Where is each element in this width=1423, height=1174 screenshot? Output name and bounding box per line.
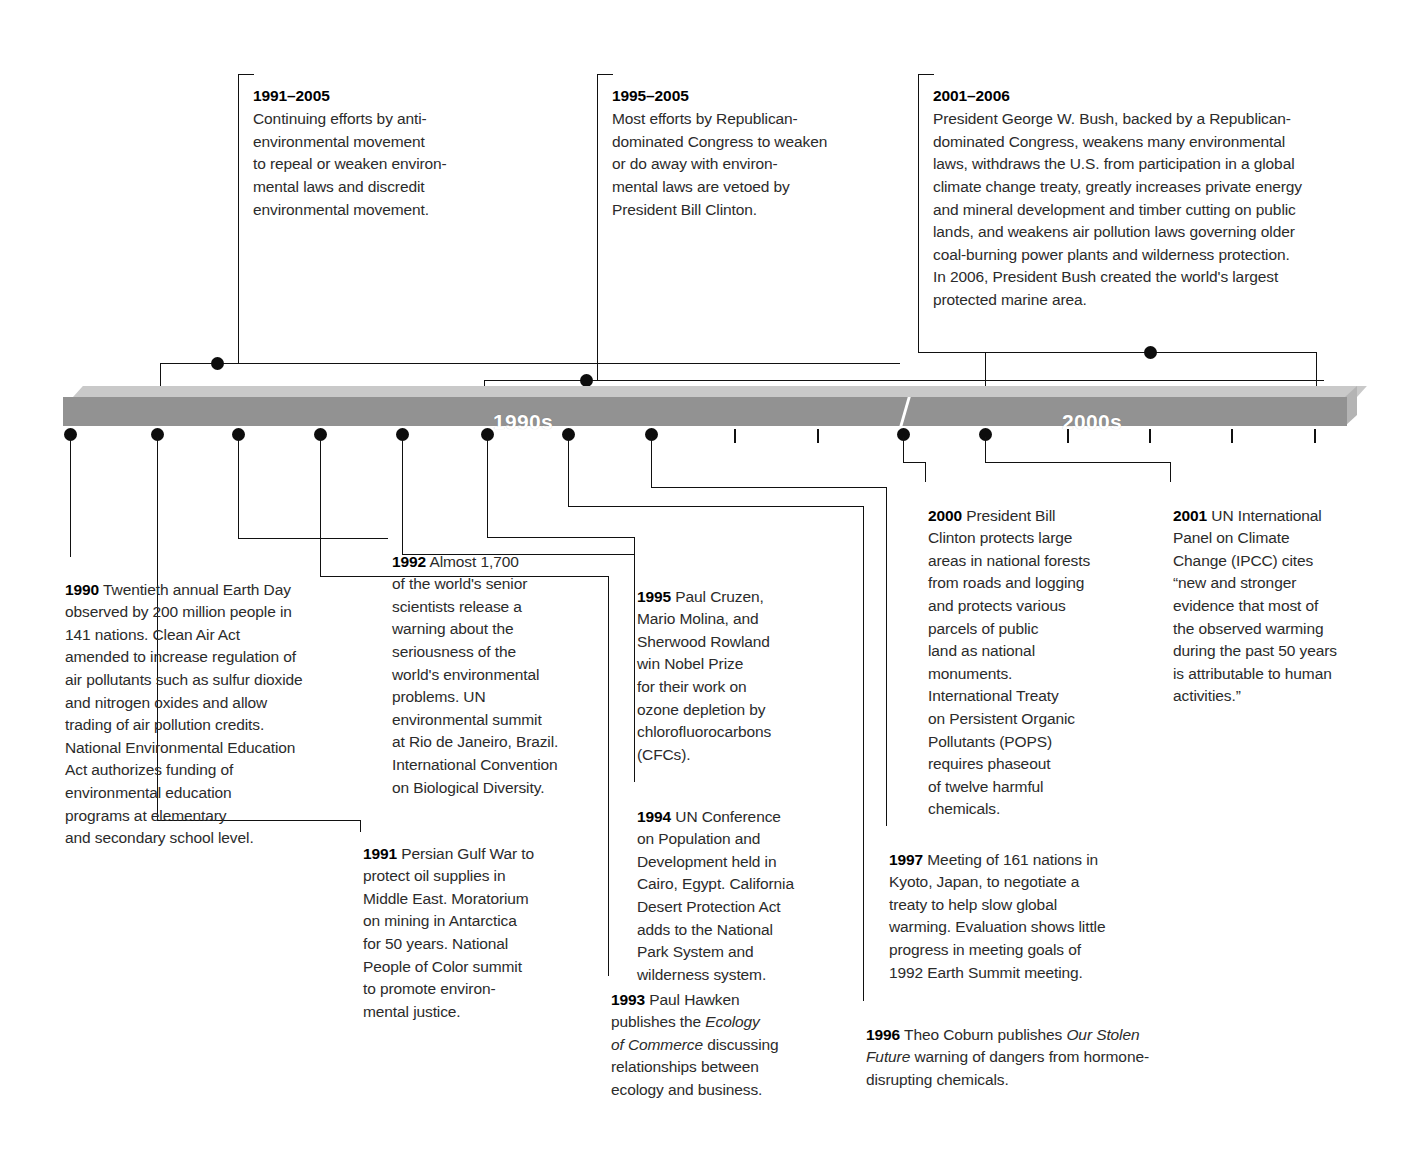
note-1995-2005-text: Most efforts by Republican- dominated Co… [612,110,827,217]
connector-2001-drop [1170,462,1171,482]
note-1997-text: Meeting of 161 nations in Kyoto, Japan, … [889,851,1105,981]
note-1991-2005: 1991–2005Continuing efforts by anti- env… [253,62,483,221]
note-1990: 1990 Twentieth annual Earth Day observed… [65,556,375,850]
note-1990-text: Twentieth annual Earth Day observed by 2… [65,581,303,847]
note-1995-2005: 1995–2005Most efforts by Republican- dom… [612,62,892,221]
note-1994-year: 1994 [637,808,671,825]
connector-dot-2001-2006 [1144,346,1157,359]
note-1995-text: Paul Cruzen, Mario Molina, and Sherwood … [637,588,771,763]
connector-1995-vertical [487,437,488,537]
connector-1991-2005-horizontal [160,363,900,364]
note-1991-2005-text: Continuing efforts by anti- environmenta… [253,110,447,217]
connector-1991-2005-stub [238,74,254,75]
connector-1992-horizontal [238,538,388,539]
note-1991-2005-years: 1991–2005 [253,85,483,108]
timeline-bar-top-face [73,386,1367,397]
note-1991-year: 1991 [363,845,397,862]
note-2000-text: President Bill Clinton protects large ar… [928,507,1090,818]
note-1993-year: 1993 [611,991,645,1008]
connector-1990 [70,437,71,557]
note-1992: 1992 Almost 1,700 of the world's senior … [392,528,607,799]
timeline-diagram: 1991–2005Continuing efforts by anti- env… [0,0,1423,1174]
note-2001-text: UN International Panel on Climate Change… [1173,507,1337,705]
connector-2000-horizontal [903,462,925,463]
timeline-tick-2003 [1149,429,1151,443]
note-2001-2006: 2001–2006President George W. Bush, backe… [933,62,1403,312]
connector-2001-2006-stub [918,74,934,75]
connector-1996-horizontal [568,506,863,507]
timeline-bar: 1990s 2000s [63,386,1357,434]
note-1995-2005-years: 1995–2005 [612,85,892,108]
note-2001-year: 2001 [1173,507,1207,524]
connector-2001-2006-horizontal [918,352,1317,353]
timeline-tick-1999 [817,429,819,443]
connector-1996-drop [863,506,864,1001]
note-2001-2006-text: President George W. Bush, backed by a Re… [933,110,1302,308]
timeline-tick-2002 [1067,429,1069,443]
note-1995-year: 1995 [637,588,671,605]
note-1992-text: Almost 1,700 of the world's senior scien… [392,553,558,796]
connector-1995-2005-horizontal [484,380,1324,381]
note-1996-year: 1996 [866,1026,900,1043]
note-1996-pre: Theo Coburn publishes [900,1026,1066,1043]
note-1992-year: 1992 [392,553,426,570]
note-2001: 2001 UN International Panel on Climate C… [1173,482,1393,708]
connector-2000-vertical [903,437,904,462]
note-1994-text: UN Conference on Population and Developm… [637,808,794,983]
connector-1997-vertical [651,437,652,487]
connector-1994-drop [634,554,635,782]
note-2000: 2000 President Bill Clinton protects lar… [928,482,1143,821]
connector-dot-1991-2005 [211,357,224,370]
note-1991-text: Persian Gulf War to protect oil supplies… [363,845,534,1020]
connector-1993-drop [608,576,609,976]
note-1990-year: 1990 [65,581,99,598]
connector-1997-drop [886,487,887,826]
note-2001-2006-years: 2001–2006 [933,85,1403,108]
timeline-tick-2005 [1314,429,1316,443]
note-2000-year: 2000 [928,507,962,524]
connector-1995-drop [634,537,635,567]
note-1996: 1996 Theo Coburn publishes Our Stolen Fu… [866,1001,1286,1091]
note-1991: 1991 Persian Gulf War to protect oil sup… [363,820,578,1023]
connector-2000-drop [925,462,926,482]
timeline-bar-front-face: 1990s 2000s [63,397,1347,426]
connector-1991-2005-vertical [238,74,239,363]
connector-2001-2006-vertical [918,74,919,352]
note-1994: 1994 UN Conference on Population and Dev… [637,783,862,986]
connector-2001-horizontal [985,462,1170,463]
timeline-tick-1998 [734,429,736,443]
note-1997-year: 1997 [889,851,923,868]
note-1997: 1997 Meeting of 161 nations in Kyoto, Ja… [889,826,1189,984]
decade-label-1990s: 1990s [493,410,553,434]
connector-1995-2005-vertical [597,74,598,380]
connector-2001-vertical [985,437,986,462]
connector-1996-vertical [568,437,569,506]
connector-1992-vertical [238,437,239,538]
decade-label-2000s: 2000s [1062,410,1122,434]
connector-1995-2005-stub [597,74,613,75]
timeline-tick-2004 [1231,429,1233,443]
connector-1997-horizontal [651,487,886,488]
note-1995: 1995 Paul Cruzen, Mario Molina, and Sher… [637,563,862,766]
